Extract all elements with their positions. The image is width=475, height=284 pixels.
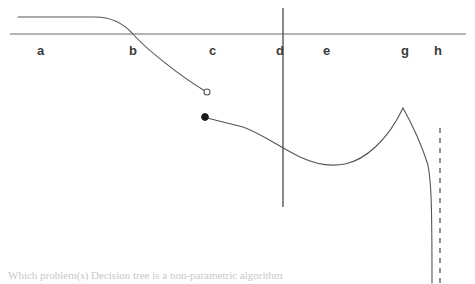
- figure-caption: Which problem(s) Decision tree is a non-…: [8, 272, 468, 284]
- figure-caption-text: Which problem(s) Decision tree is a non-…: [8, 272, 283, 281]
- axis-label-d: d: [276, 44, 284, 57]
- curve-right-branch: [207, 108, 432, 283]
- function-graph-figure: a b c d e g h Which problem(s) Decision …: [0, 0, 475, 284]
- axis-label-g: g: [401, 44, 409, 57]
- axis-label-c: c: [209, 44, 216, 57]
- curve-left-branch: [18, 17, 205, 91]
- axis-label-e: e: [323, 44, 330, 57]
- filled-circle-endpoint: [202, 114, 209, 121]
- axis-label-h: h: [434, 44, 442, 57]
- axis-label-a: a: [37, 44, 44, 57]
- axis-label-b: b: [129, 44, 137, 57]
- open-circle-endpoint: [204, 89, 210, 95]
